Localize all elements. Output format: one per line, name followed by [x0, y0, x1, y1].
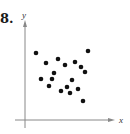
data-point — [70, 78, 75, 83]
y-axis-label: y — [21, 10, 26, 20]
data-point — [81, 99, 86, 104]
axes: y x — [15, 10, 123, 128]
data-point — [76, 87, 81, 92]
data-point — [34, 51, 39, 56]
x-axis-label: x — [118, 115, 123, 125]
data-point — [59, 89, 64, 94]
data-point — [79, 65, 84, 70]
data-point — [63, 63, 68, 68]
data-point — [86, 49, 91, 54]
data-point — [83, 70, 88, 75]
data-point — [56, 57, 61, 62]
scatter-plot: y x — [0, 0, 130, 134]
data-point — [73, 60, 78, 65]
data-point — [39, 77, 44, 82]
x-axis-arrow-icon — [108, 118, 115, 122]
data-point — [50, 77, 55, 82]
data-points — [34, 49, 91, 104]
y-axis-arrow-icon — [23, 20, 27, 27]
data-point — [47, 84, 52, 89]
data-point — [68, 91, 73, 96]
data-point — [52, 71, 57, 76]
data-point — [44, 61, 49, 66]
data-point — [65, 85, 70, 90]
